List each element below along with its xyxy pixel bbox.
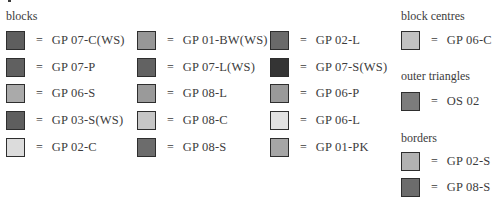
color-swatch (6, 31, 25, 50)
color-code-label: GP 06-S (52, 86, 96, 101)
color-swatch (6, 58, 25, 77)
color-swatch (401, 152, 420, 171)
equals-sign: = (431, 180, 438, 195)
blocks-section-title: blocks (6, 9, 37, 24)
color-code-label: GP 02-S (447, 154, 491, 169)
legend-entry-border-1: = GP 02-S (401, 152, 490, 171)
equals-sign: = (167, 33, 174, 48)
equals-sign: = (36, 33, 43, 48)
color-code-label: GP 02-C (52, 140, 97, 155)
block-centres-section-title: block centres (401, 9, 465, 24)
equals-sign: = (300, 33, 307, 48)
legend-entry-block: =GP 06-L (270, 111, 360, 130)
color-swatch (401, 178, 420, 197)
cropped-heading-glyph (8, 0, 11, 2)
color-code-label: GP 07-P (52, 60, 96, 75)
legend-entry-block: =GP 07-L(WS) (137, 58, 255, 77)
color-swatch (137, 138, 156, 157)
color-code-label: GP 08-L (183, 86, 227, 101)
equals-sign: = (431, 94, 438, 109)
color-code-label: GP 08-C (183, 113, 228, 128)
equals-sign: = (36, 60, 43, 75)
color-code-label: OS 02 (447, 94, 480, 109)
color-swatch (270, 84, 289, 103)
color-swatch (137, 111, 156, 130)
color-code-label: GP 07-S(WS) (316, 60, 388, 75)
color-code-label: GP 07-C(WS) (52, 33, 125, 48)
color-swatch (270, 58, 289, 77)
color-code-label: GP 01-PK (316, 140, 369, 155)
equals-sign: = (300, 60, 307, 75)
color-swatch (270, 31, 289, 50)
color-code-label: GP 01-BW(WS) (183, 33, 268, 48)
equals-sign: = (300, 140, 307, 155)
legend-entry-block: =GP 06-S (6, 84, 95, 103)
equals-sign: = (431, 33, 438, 48)
legend-entry-block: =GP 07-P (6, 58, 95, 77)
color-code-label: GP 03-S(WS) (52, 113, 124, 128)
equals-sign: = (36, 113, 43, 128)
equals-sign: = (167, 86, 174, 101)
equals-sign: = (167, 113, 174, 128)
equals-sign: = (300, 86, 307, 101)
color-swatch (401, 31, 420, 50)
legend-entry-block: =GP 01-PK (270, 138, 369, 157)
color-swatch (6, 84, 25, 103)
legend-entry-border-2: = GP 08-S (401, 178, 490, 197)
legend-entry-block: =GP 07-S(WS) (270, 58, 387, 77)
equals-sign: = (167, 140, 174, 155)
legend-entry-outer-triangle: = OS 02 (401, 92, 479, 111)
outer-triangles-section-title: outer triangles (401, 69, 470, 84)
color-swatch (6, 111, 25, 130)
borders-section-title: borders (401, 131, 437, 146)
color-swatch (270, 111, 289, 130)
equals-sign: = (167, 60, 174, 75)
color-code-label: GP 06-P (316, 86, 360, 101)
legend-entry-block: =GP 01-BW(WS) (137, 31, 268, 50)
legend-entry-block: =GP 02-C (6, 138, 97, 157)
color-code-label: GP 08-S (447, 180, 491, 195)
legend-entry-block: =GP 08-S (137, 138, 226, 157)
equals-sign: = (431, 154, 438, 169)
legend-entry-block: =GP 02-L (270, 31, 360, 50)
legend-entry-block: =GP 08-C (137, 111, 228, 130)
color-swatch (137, 31, 156, 50)
legend-entry-block: =GP 07-C(WS) (6, 31, 125, 50)
color-code-label: GP 06-L (316, 113, 360, 128)
color-code-label: GP 02-L (316, 33, 360, 48)
color-swatch (270, 138, 289, 157)
color-code-label: GP 07-L(WS) (183, 60, 255, 75)
color-swatch (6, 138, 25, 157)
equals-sign: = (36, 140, 43, 155)
color-swatch (137, 84, 156, 103)
legend-entry-block-centre: = GP 06-C (401, 31, 492, 50)
equals-sign: = (36, 86, 43, 101)
legend-entry-block: =GP 08-L (137, 84, 227, 103)
color-swatch (401, 92, 420, 111)
legend-entry-block: =GP 06-P (270, 84, 359, 103)
equals-sign: = (300, 113, 307, 128)
color-code-label: GP 06-C (447, 33, 492, 48)
legend-entry-block: =GP 03-S(WS) (6, 111, 123, 130)
color-swatch (137, 58, 156, 77)
color-code-label: GP 08-S (183, 140, 227, 155)
